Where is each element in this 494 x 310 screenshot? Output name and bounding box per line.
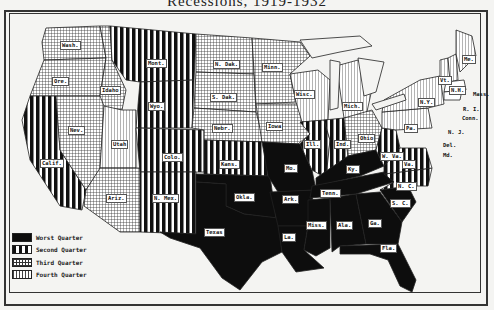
state-label: Idaho xyxy=(100,86,121,95)
state-nmex xyxy=(140,172,196,234)
legend-label: Fourth Quarter xyxy=(36,271,87,278)
outside-label: Mass. xyxy=(472,91,491,98)
state-label: Utah xyxy=(111,140,128,149)
state-label: Nev. xyxy=(68,126,85,135)
state-label: Ala. xyxy=(336,221,353,230)
legend-label: Worst Quarter xyxy=(36,234,83,241)
state-label: Mont. xyxy=(146,59,167,68)
state-label: Ore. xyxy=(52,77,69,86)
state-label: N.Y. xyxy=(418,98,435,107)
state-label: Tenn. xyxy=(320,189,341,198)
state-label: Colo. xyxy=(162,153,183,162)
outside-label: Conn. xyxy=(461,115,480,122)
lake-superior xyxy=(300,36,372,58)
state-label: W. Va. xyxy=(380,152,404,161)
state-fla xyxy=(340,244,416,292)
state-utah xyxy=(100,106,136,168)
state-label: S. C. xyxy=(390,199,411,208)
map-legend: Worst Quarter Second Quarter Third Quart… xyxy=(12,231,87,281)
legend-item-fourth: Fourth Quarter xyxy=(12,269,87,281)
state-label: Kans. xyxy=(219,160,240,169)
state-label: Ariz. xyxy=(106,194,127,203)
state-label: S. Dak. xyxy=(210,93,237,102)
legend-item-third: Third Quarter xyxy=(12,256,87,268)
state-label: Ill. xyxy=(304,140,321,149)
legend-item-worst: Worst Quarter xyxy=(12,231,87,243)
state-label: Ind. xyxy=(334,140,351,149)
state-label: N.H. xyxy=(449,86,466,95)
state-label: Ky. xyxy=(346,165,360,174)
state-mont xyxy=(110,26,196,82)
legend-swatch-heavy-stripes xyxy=(12,245,32,254)
legend-swatch-solid xyxy=(12,233,32,242)
legend-item-second: Second Quarter xyxy=(12,244,87,256)
state-kans xyxy=(204,140,268,176)
state-label: Wisc. xyxy=(294,90,315,99)
legend-label: Third Quarter xyxy=(36,259,83,266)
state-label: Nebr. xyxy=(212,124,233,133)
state-label: Fla. xyxy=(380,244,397,253)
state-label: Okla. xyxy=(234,193,255,202)
state-label: Miss. xyxy=(306,221,327,230)
legend-swatch-light-stripes xyxy=(12,270,32,279)
state-me xyxy=(456,30,476,72)
state-label: Ohio xyxy=(358,134,375,143)
outside-label: Md. xyxy=(442,152,454,159)
state-label: Wash. xyxy=(60,41,81,50)
state-label: Calif. xyxy=(40,159,64,168)
outside-label: R. I. xyxy=(462,106,481,113)
state-label: Iowa xyxy=(266,122,283,131)
state-label: Texas xyxy=(204,228,225,237)
legend-label: Second Quarter xyxy=(36,246,87,253)
state-label: Mo. xyxy=(284,164,298,173)
state-label: Minn. xyxy=(262,63,283,72)
outside-label: N. J. xyxy=(447,129,466,136)
state-label: N. C. xyxy=(396,182,417,191)
state-label: Vt. xyxy=(438,76,452,85)
state-label: Wyo. xyxy=(148,102,165,111)
state-label: La. xyxy=(282,233,296,242)
state-sdak xyxy=(194,72,256,112)
state-colo xyxy=(136,128,204,172)
state-label: Pa. xyxy=(404,124,418,133)
state-label: Mich. xyxy=(342,102,363,111)
state-label: Ga. xyxy=(368,219,382,228)
state-label: N. Mex. xyxy=(152,194,179,203)
state-label: Va. xyxy=(402,160,416,169)
lake-michigan xyxy=(330,60,340,110)
state-label: Me. xyxy=(462,55,476,64)
legend-swatch-grid xyxy=(12,258,32,267)
state-label: Ark. xyxy=(282,195,299,204)
state-label: N. Dak. xyxy=(213,60,240,69)
outside-label: Del. xyxy=(442,142,457,149)
